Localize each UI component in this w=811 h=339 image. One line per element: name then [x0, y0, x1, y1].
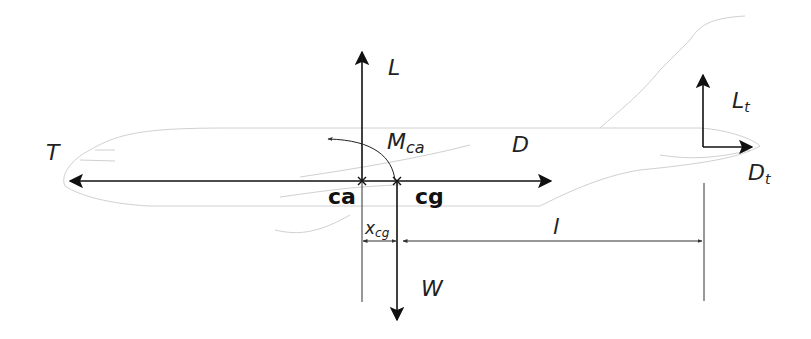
drag-label: D: [512, 132, 529, 157]
ca-label: ca: [328, 184, 356, 209]
weight-label: W: [421, 276, 444, 301]
aircraft-silhouette: [64, 16, 760, 233]
l-label: l: [553, 214, 559, 239]
aircraft-force-diagram: L T D W Mca Lt Dt ca cg xcg l: [0, 0, 811, 339]
cg-label: cg: [415, 184, 444, 209]
tail-drag-label: Dt: [748, 160, 771, 187]
xcg-label: xcg: [364, 218, 390, 240]
moment-label: Mca: [387, 129, 425, 157]
lift-label: L: [388, 55, 400, 80]
tail-lift-label: Lt: [732, 88, 750, 115]
thrust-label: T: [46, 140, 61, 165]
